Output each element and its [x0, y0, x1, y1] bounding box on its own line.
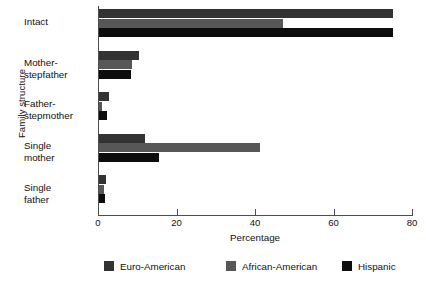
y-axis-label-single-mother: Single mother — [24, 140, 92, 163]
legend-label: Euro-American — [120, 261, 185, 272]
bar — [99, 60, 132, 69]
y-axis-label-line: Mother- — [24, 57, 92, 69]
legend-swatch-icon — [104, 261, 114, 271]
y-axis-label-line: Intact — [24, 16, 92, 28]
bar — [99, 153, 159, 162]
bar — [99, 70, 131, 79]
y-axis-label-line: Single — [24, 182, 92, 194]
y-axis-label-mother-stepfather: Mother- stepfather — [24, 57, 92, 80]
bar — [99, 143, 260, 152]
bar — [99, 92, 109, 101]
bar — [99, 51, 139, 60]
x-axis-tick-label: 60 — [319, 217, 349, 228]
x-axis-tick — [98, 209, 99, 216]
y-axis-label-line: Father- — [24, 98, 92, 110]
x-axis-tick — [412, 209, 413, 216]
bar-chart-figure: Family structure Intact Mother- stepfath… — [0, 0, 426, 281]
bar — [99, 9, 393, 18]
legend-label: Hispanic — [358, 261, 396, 272]
bar — [99, 19, 283, 28]
chart-legend: Euro-American African-American Hispanic — [104, 259, 414, 275]
y-axis-label-intact: Intact — [24, 16, 92, 28]
bar — [99, 194, 105, 203]
y-axis-label-line: stepfather — [24, 69, 92, 81]
x-axis-tick — [334, 209, 335, 216]
y-axis-category-labels: Intact Mother- stepfather Father- stepmo… — [24, 0, 92, 216]
x-axis-tick — [255, 209, 256, 216]
x-axis-tick — [177, 209, 178, 216]
y-axis-label-father-stepmother: Father- stepmother — [24, 98, 92, 121]
bar — [99, 175, 106, 184]
legend-swatch-icon — [226, 261, 236, 271]
bar — [99, 134, 145, 143]
x-axis-tick-label: 0 — [83, 217, 113, 228]
x-axis-tick-label: 80 — [397, 217, 426, 228]
y-axis-label-line: stepmother — [24, 110, 92, 122]
y-axis-label-line: mother — [24, 152, 92, 164]
y-axis-label-line: father — [24, 194, 92, 206]
y-axis-label-single-father: Single father — [24, 182, 92, 205]
legend-item-african-american: African-American — [226, 259, 317, 273]
y-axis-label-line: Single — [24, 140, 92, 152]
bar — [99, 102, 102, 111]
legend-swatch-icon — [342, 261, 352, 271]
x-axis-tick-label: 40 — [240, 217, 270, 228]
bar — [99, 111, 107, 120]
x-axis-title: Percentage — [98, 232, 412, 243]
bar — [99, 28, 393, 37]
plot-area: 020406080 — [98, 6, 418, 216]
x-axis-tick-label: 20 — [162, 217, 192, 228]
legend-item-hispanic: Hispanic — [342, 259, 396, 273]
legend-label: African-American — [242, 261, 317, 272]
legend-item-euro-american: Euro-American — [104, 259, 185, 273]
bar — [99, 185, 104, 194]
